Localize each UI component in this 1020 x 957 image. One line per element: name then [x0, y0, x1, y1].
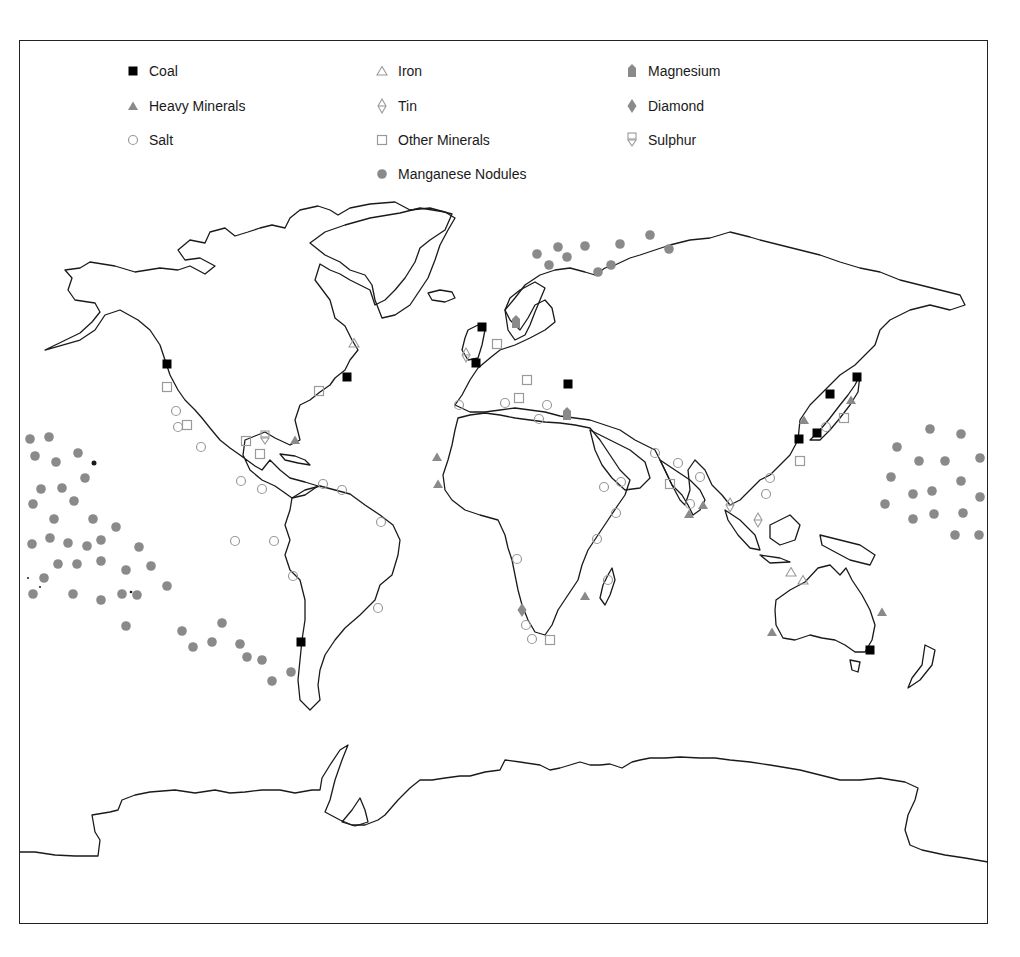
legend-item-magnesium: Magnesium: [625, 63, 720, 79]
marker-manganese-nodules: [96, 535, 106, 545]
marker-manganese-nodules: [53, 559, 63, 569]
legend-label: Manganese Nodules: [398, 166, 526, 182]
marker-manganese-nodules: [121, 621, 131, 631]
marker-salt: [762, 490, 771, 499]
marker-manganese-nodules: [146, 561, 156, 571]
marker-manganese-nodules: [664, 244, 674, 254]
marker-manganese-nodules: [908, 514, 918, 524]
marker-manganese-nodules: [36, 484, 46, 494]
marker-manganese-nodules: [188, 642, 198, 652]
marker-manganese-nodules: [57, 483, 67, 493]
coal-symbol-icon: [126, 63, 140, 79]
tin-symbol-icon: [375, 98, 389, 114]
marker-manganese-nodules: [177, 626, 187, 636]
marker-manganese-nodules: [44, 432, 54, 442]
marker-coal: [795, 435, 804, 444]
marker-iron: [786, 568, 796, 577]
marker-manganese-nodules: [111, 522, 121, 532]
coast-java: [760, 555, 790, 563]
legend-item-other-minerals: Other Minerals: [375, 132, 490, 148]
marker-salt: [674, 459, 683, 468]
coast-india: [660, 460, 705, 515]
marker-salt: [258, 485, 267, 494]
marker-manganese-nodules: [27, 539, 37, 549]
marker-manganese-nodules: [975, 492, 985, 502]
island-hawaii: [92, 461, 97, 466]
marker-salt: [522, 621, 531, 630]
salt-symbol-icon: [126, 132, 140, 148]
marker-manganese-nodules: [117, 589, 127, 599]
marker-manganese-nodules: [28, 589, 38, 599]
marker-coal: [297, 638, 306, 647]
coast-south-america: [285, 486, 400, 710]
marker-salt: [696, 473, 705, 482]
marker-other-minerals: [796, 457, 805, 466]
legend-item-coal: Coal: [126, 63, 178, 79]
marker-other-minerals: [546, 636, 555, 645]
legend-label: Diamond: [648, 98, 704, 114]
coast-iceland: [428, 290, 455, 302]
marker-other-minerals: [163, 383, 172, 392]
marker-manganese-nodules: [914, 456, 924, 466]
marker-manganese-nodules: [88, 514, 98, 524]
coast-borneo: [770, 515, 800, 545]
marker-heavy-minerals: [877, 608, 887, 617]
coast-new-guinea: [820, 535, 875, 565]
marker-coal: [826, 390, 835, 399]
marker-salt: [543, 401, 552, 410]
legend-item-iron: Iron: [375, 63, 422, 79]
marker-coal: [478, 323, 487, 332]
marker-coal: [163, 360, 172, 369]
coast-europe: [455, 232, 965, 505]
marker-manganese-nodules: [950, 530, 960, 540]
marker-other-minerals: [840, 414, 849, 423]
marker-manganese-nodules: [975, 453, 985, 463]
legend-label: Magnesium: [648, 63, 720, 79]
marker-manganese-nodules: [886, 472, 896, 482]
marker-coal: [343, 373, 352, 382]
marker-manganese-nodules: [974, 530, 984, 540]
island-speck: [39, 586, 41, 588]
coast-new-zealand: [908, 645, 935, 688]
marker-manganese-nodules: [134, 542, 144, 552]
marker-salt: [237, 477, 246, 486]
legend-item-diamond: Diamond: [625, 98, 704, 114]
marker-manganese-nodules: [121, 565, 131, 575]
diamond-symbol-icon: [625, 98, 639, 114]
marker-manganese-nodules: [72, 559, 82, 569]
marker-magnesium: [563, 407, 571, 420]
marker-salt: [528, 635, 537, 644]
marker-manganese-nodules: [615, 239, 625, 249]
marker-salt: [377, 518, 386, 527]
marker-manganese-nodules: [645, 230, 655, 240]
island-speck: [27, 577, 29, 579]
marker-manganese-nodules: [544, 260, 554, 270]
marker-coal: [853, 373, 862, 382]
coast-cuba: [280, 454, 310, 465]
marker-manganese-nodules: [593, 267, 603, 277]
marker-manganese-nodules: [68, 589, 78, 599]
heavy-minerals-symbol-icon: [126, 98, 140, 114]
marker-manganese-nodules: [880, 499, 890, 509]
marker-magnesium: [512, 315, 520, 328]
legend-label: Tin: [398, 98, 417, 114]
legend-label: Coal: [149, 63, 178, 79]
legend-label: Salt: [149, 132, 173, 148]
marker-manganese-nodules: [267, 676, 277, 686]
marker-heavy-minerals: [698, 501, 708, 510]
marker-heavy-minerals: [580, 592, 590, 601]
legend-label: Heavy Minerals: [149, 98, 245, 114]
coast-antarctica: [20, 745, 988, 862]
marker-manganese-nodules: [162, 581, 172, 591]
marker-manganese-nodules: [925, 424, 935, 434]
marker-salt: [197, 443, 206, 452]
marker-salt: [600, 483, 609, 492]
marker-coal: [472, 359, 481, 368]
marker-manganese-nodules: [532, 249, 542, 259]
marker-manganese-nodules: [908, 489, 918, 499]
marker-manganese-nodules: [562, 252, 572, 262]
marker-manganese-nodules: [63, 538, 73, 548]
marker-manganese-nodules: [940, 456, 950, 466]
coast-sumatra: [725, 510, 760, 550]
coastlines: [20, 202, 988, 862]
